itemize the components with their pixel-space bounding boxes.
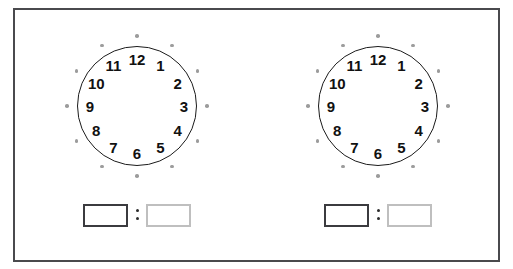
answer-row-1 [83, 200, 191, 230]
clock-numeral-10: 10 [329, 75, 346, 90]
worksheet-frame: 123456789101112 123456789101112 [13, 8, 500, 262]
clock-numeral-1: 1 [397, 58, 405, 73]
clock-numeral-1: 1 [156, 58, 164, 73]
clock-tick-dot [100, 165, 104, 169]
clock-tick-dot [75, 139, 79, 143]
clock-tick-dot [170, 44, 174, 48]
clock-numeral-8: 8 [333, 122, 341, 137]
clock-tick-dot [437, 69, 441, 73]
clock-numeral-7: 7 [109, 139, 117, 154]
clock-tick-dot [100, 44, 104, 48]
clock-tick-dot [306, 104, 310, 108]
clock-tick-dot [316, 139, 320, 143]
clock-tick-dot [135, 174, 139, 178]
clock-tick-dot [196, 139, 200, 143]
clock-numeral-2: 2 [174, 75, 182, 90]
clock-numeral-11: 11 [106, 58, 122, 73]
clock-problem-2: 123456789101112 [258, 10, 498, 264]
clock-numeral-10: 10 [88, 75, 105, 90]
clock-numeral-9: 9 [86, 99, 94, 114]
minutes-input-1[interactable] [146, 204, 191, 227]
time-separator-1 [132, 206, 142, 224]
clock-tick-dot [75, 69, 79, 73]
clock-tick-dot [170, 165, 174, 169]
clock-tick-dot [446, 104, 450, 108]
clock-numeral-6: 6 [374, 146, 382, 161]
clock-numeral-11: 11 [347, 58, 363, 73]
hours-input-2[interactable] [324, 204, 369, 227]
clock-numeral-5: 5 [156, 139, 164, 154]
time-separator-2 [373, 206, 383, 224]
clock-numeral-5: 5 [397, 139, 405, 154]
hours-input-1[interactable] [83, 204, 128, 227]
clock-tick-dot [196, 69, 200, 73]
clock-tick-dot [437, 139, 441, 143]
clock-tick-dot [411, 44, 415, 48]
clock-numeral-2: 2 [415, 75, 423, 90]
clock-numeral-4: 4 [415, 122, 423, 137]
clock-numeral-3: 3 [421, 99, 429, 114]
clock-tick-dot [135, 34, 139, 38]
clock-numeral-7: 7 [350, 139, 358, 154]
clock-tick-dot [376, 34, 380, 38]
clock-tick-dot [341, 165, 345, 169]
clock-numeral-12: 12 [370, 52, 387, 67]
clock-tick-dot [411, 165, 415, 169]
clock-face-1[interactable]: 123456789101112 [63, 32, 211, 180]
clock-numeral-6: 6 [133, 146, 141, 161]
clock-numeral-12: 12 [129, 52, 146, 67]
clock-tick-dot [341, 44, 345, 48]
minutes-input-2[interactable] [387, 204, 432, 227]
clock-numeral-4: 4 [174, 122, 182, 137]
clock-numeral-3: 3 [180, 99, 188, 114]
clock-tick-dot [316, 69, 320, 73]
answer-row-2 [324, 200, 432, 230]
clock-tick-dot [65, 104, 69, 108]
clock-problem-1: 123456789101112 [17, 10, 257, 264]
clock-numeral-9: 9 [327, 99, 335, 114]
clock-tick-dot [205, 104, 209, 108]
clock-face-2[interactable]: 123456789101112 [304, 32, 452, 180]
clock-numeral-8: 8 [92, 122, 100, 137]
clock-tick-dot [376, 174, 380, 178]
